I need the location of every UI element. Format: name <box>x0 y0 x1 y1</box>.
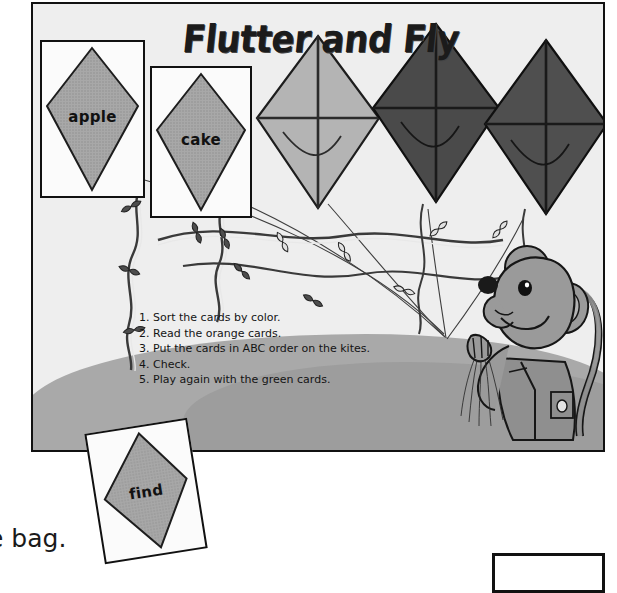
instruction-item: 1.Sort the cards by color. <box>139 310 370 326</box>
bottom-right-box <box>492 553 605 593</box>
mouse-character <box>465 240 605 440</box>
word-card-apple[interactable]: apple <box>40 40 145 198</box>
word-card-label: apple <box>42 108 143 126</box>
word-card-find[interactable]: find <box>84 418 207 565</box>
instruction-text: Check. <box>153 358 190 371</box>
instruction-text: Read the orange cards. <box>153 327 281 340</box>
instruction-text: Sort the cards by color. <box>153 311 280 324</box>
instruction-item: 2.Read the orange cards. <box>139 326 370 342</box>
word-card-cake[interactable]: cake <box>150 66 252 218</box>
cropped-page-text: e bag. <box>0 524 66 553</box>
instruction-item: 4.Check. <box>139 357 370 373</box>
instruction-number: 4. <box>139 357 153 373</box>
instruction-item: 5.Play again with the green cards. <box>139 372 370 388</box>
instruction-number: 5. <box>139 372 153 388</box>
instruction-number: 1. <box>139 310 153 326</box>
page-title: Flutter and Fly <box>180 16 461 61</box>
illustration-frame: apple cake Flutter and Fly 1.Sort the ca… <box>31 2 605 452</box>
word-card-label: cake <box>152 131 250 149</box>
instruction-text: Put the cards in ABC order on the kites. <box>153 342 370 355</box>
instruction-item: 3.Put the cards in ABC order on the kite… <box>139 341 370 357</box>
illustration-inner: apple cake Flutter and Fly 1.Sort the ca… <box>33 4 603 450</box>
kite-dark-gray-2 <box>481 36 605 218</box>
instruction-number: 2. <box>139 326 153 342</box>
instruction-list: 1.Sort the cards by color. 2.Read the or… <box>139 310 370 388</box>
instruction-text: Play again with the green cards. <box>153 373 330 386</box>
instruction-number: 3. <box>139 341 153 357</box>
